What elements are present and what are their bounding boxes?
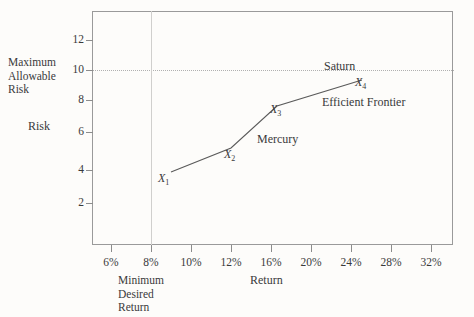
y-tick-label-4: 4 <box>60 164 84 176</box>
y-tick-6 <box>86 132 93 133</box>
data-point-x2-sub: 2 <box>231 154 235 163</box>
x-tick-label-28: 28% <box>371 256 411 268</box>
x-tick-24 <box>351 245 352 252</box>
maximum-allowable-risk-label: Maximum Allowable Risk <box>8 56 56 97</box>
data-point-x1: X1 <box>158 172 169 189</box>
y-tick-2 <box>86 203 93 204</box>
x-tick-12 <box>231 245 232 252</box>
data-point-x3-sub: 3 <box>277 109 281 118</box>
y-axis-title: Risk <box>28 120 50 133</box>
x-tick-20 <box>311 245 312 252</box>
x-tick-label-12: 12% <box>211 256 251 268</box>
x-tick-28 <box>391 245 392 252</box>
minimum-desired-return-line <box>151 11 152 245</box>
y-tick-10 <box>86 70 93 71</box>
annotation-efficient-frontier: Efficient Frontier <box>322 96 405 109</box>
x-tick-label-24: 24% <box>331 256 371 268</box>
y-tick-8 <box>86 100 93 101</box>
y-tick-label-8: 8 <box>60 94 84 106</box>
x-tick-6 <box>111 245 112 252</box>
x-axis-title: Return <box>250 274 283 287</box>
y-tick-label-6: 6 <box>60 126 84 138</box>
y-tick-label-12: 12 <box>60 34 84 46</box>
x-tick-32 <box>431 245 432 252</box>
data-point-x4-sub: 4 <box>362 82 366 91</box>
data-point-x2: X2 <box>224 148 235 165</box>
x-tick-label-10: 10% <box>171 256 211 268</box>
minimum-desired-return-label: Minimum Desired Return <box>118 274 164 315</box>
x-tick-8 <box>151 245 152 252</box>
x-tick-label-6: 6% <box>91 256 131 268</box>
x-tick-10 <box>191 245 192 252</box>
data-point-x3: X3 <box>270 103 281 120</box>
plot-area <box>92 11 453 245</box>
x-tick-label-16: 16% <box>251 256 291 268</box>
annotation-saturn: Saturn <box>324 60 355 73</box>
y-tick-label-10: 10 <box>60 64 84 76</box>
data-point-x1-sub: 1 <box>165 178 169 187</box>
chart-canvas: 12 10 8 6 4 2 6% 8% 10% 12% 16% 20% 24% … <box>0 0 474 317</box>
y-tick-12 <box>86 40 93 41</box>
annotation-mercury: Mercury <box>257 133 298 146</box>
data-point-x4: X4 <box>355 76 366 93</box>
x-tick-16 <box>271 245 272 252</box>
y-tick-4 <box>86 170 93 171</box>
x-tick-label-20: 20% <box>291 256 331 268</box>
x-tick-label-8: 8% <box>131 256 171 268</box>
maximum-allowable-risk-line <box>88 70 454 71</box>
x-tick-label-32: 32% <box>411 256 451 268</box>
y-tick-label-2: 2 <box>60 197 84 209</box>
